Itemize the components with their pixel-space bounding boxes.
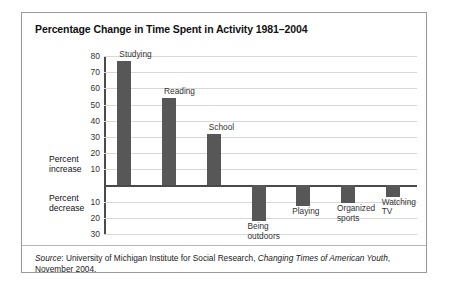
y-axis-tick-label: 60 xyxy=(60,83,100,93)
bar-label: Reading xyxy=(164,87,195,97)
gridline xyxy=(104,72,417,73)
y-axis-tick-label: 20 xyxy=(60,213,100,223)
gridline xyxy=(104,153,417,154)
bar-label-line: Playing xyxy=(292,207,319,217)
source-publication: Changing Times of American Youth xyxy=(258,253,388,263)
bar-label: Beingoutdoors xyxy=(248,222,280,241)
chart-figure: Percentage Change in Time Spent in Activ… xyxy=(21,12,427,273)
bar xyxy=(341,185,355,203)
y-axis-spine xyxy=(104,56,106,234)
bar xyxy=(386,185,400,196)
bar-label-line: School xyxy=(209,123,234,133)
bar-label-line: Studying xyxy=(119,50,151,60)
bar-label: WatchingTV xyxy=(382,198,416,217)
source-separator xyxy=(22,245,426,246)
y-axis-tick-label: 80 xyxy=(60,51,100,61)
y-axis-tick-label: 70 xyxy=(60,67,100,77)
bar-label: Studying xyxy=(119,50,151,60)
bar xyxy=(207,134,221,186)
y-axis-tick-label: 30 xyxy=(60,229,100,239)
source-note: Source: University of Michigan Institute… xyxy=(35,253,414,275)
bar xyxy=(162,98,176,185)
source-organization: University of Michigan Institute for Soc… xyxy=(66,253,258,263)
chart-title: Percentage Change in Time Spent in Activ… xyxy=(35,23,307,35)
bar-label: Organizedsports xyxy=(337,204,375,223)
gridline xyxy=(104,121,417,122)
y-axis-tick-label: 10 xyxy=(60,164,100,174)
y-axis-tick-label: 50 xyxy=(60,100,100,110)
bar xyxy=(117,61,131,186)
bar xyxy=(296,185,310,206)
y-axis-tick-label: 10 xyxy=(60,197,100,207)
bar-label-line: Reading xyxy=(164,87,195,97)
gridline xyxy=(104,105,417,106)
gridline xyxy=(104,88,417,89)
gridline xyxy=(104,137,417,138)
y-axis-tick-label: 20 xyxy=(60,148,100,158)
y-axis-tick-label: 30 xyxy=(60,132,100,142)
source-prefix: Source xyxy=(35,253,61,263)
bar xyxy=(252,185,266,221)
plot-area: 8070605040302010102030 StudyingReadingSc… xyxy=(104,56,417,234)
bar-label-line: sports xyxy=(337,214,375,224)
bar-label-line: TV xyxy=(382,207,416,217)
bar-label-line: outdoors xyxy=(248,232,280,242)
y-axis-tick-label: 40 xyxy=(60,116,100,126)
gridline xyxy=(104,169,417,170)
bar-label: School xyxy=(209,123,234,133)
bar-label: Playing xyxy=(292,207,319,217)
